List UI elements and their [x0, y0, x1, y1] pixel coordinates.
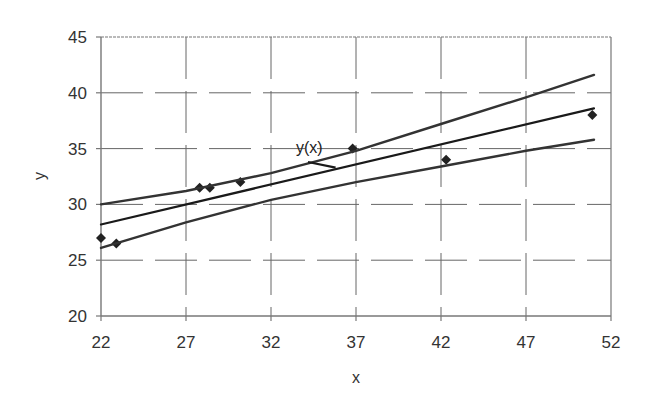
regression-line — [101, 108, 594, 224]
x-tick-label: 22 — [92, 333, 111, 352]
y-axis-title: y — [31, 172, 48, 180]
y-tick-label: 30 — [68, 195, 87, 214]
data-point-marker — [587, 110, 597, 120]
gridlines — [101, 37, 611, 316]
annotation-group: y(x) — [296, 139, 336, 168]
y-tick-label: 25 — [68, 251, 87, 270]
series-group — [96, 75, 597, 249]
y-tick-label: 20 — [68, 307, 87, 326]
x-axis-title: x — [352, 369, 360, 386]
axes — [96, 37, 611, 321]
x-tick-label: 37 — [347, 333, 366, 352]
x-tick-label: 32 — [262, 333, 281, 352]
data-point-marker — [441, 155, 451, 165]
data-point-marker — [96, 233, 106, 243]
y-tick-label: 40 — [68, 84, 87, 103]
x-tick-label: 42 — [432, 333, 451, 352]
x-tick-label: 47 — [517, 333, 536, 352]
tick-labels: 20253035404522273237424752 — [68, 28, 620, 352]
y-tick-label: 35 — [68, 140, 87, 159]
chart: 20253035404522273237424752 y(x) x y — [0, 0, 652, 409]
annotation-leader-line — [308, 162, 336, 168]
annotation-label: y(x) — [296, 139, 323, 156]
y-tick-label: 45 — [68, 28, 87, 47]
x-tick-label: 52 — [602, 333, 621, 352]
x-tick-label: 27 — [177, 333, 196, 352]
